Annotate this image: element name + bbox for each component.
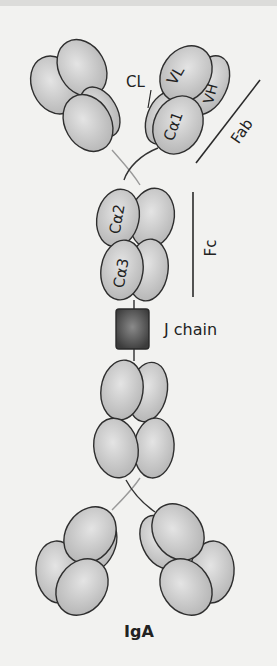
left-fab [21, 31, 128, 161]
label-j-chain: J chain [163, 320, 217, 339]
figure-title: IgA [124, 622, 154, 641]
iga-diagram: VL VH Cα1 CL Fab Cα2 Cα3 Fc J chain [0, 0, 277, 666]
label-fc: Fc [202, 240, 220, 257]
fc-region: Cα2 Cα3 [91, 184, 179, 303]
j-chain [116, 309, 149, 349]
label-fab: Fab [227, 115, 257, 147]
right-fab: VL VH Cα1 CL [126, 36, 238, 163]
lower-monomer [33, 357, 236, 625]
label-cl: CL [126, 73, 145, 91]
hinge [124, 148, 158, 180]
upper-monomer: VL VH Cα1 CL Fab Cα2 Cα3 Fc [21, 31, 260, 304]
hinge-light [112, 150, 140, 185]
